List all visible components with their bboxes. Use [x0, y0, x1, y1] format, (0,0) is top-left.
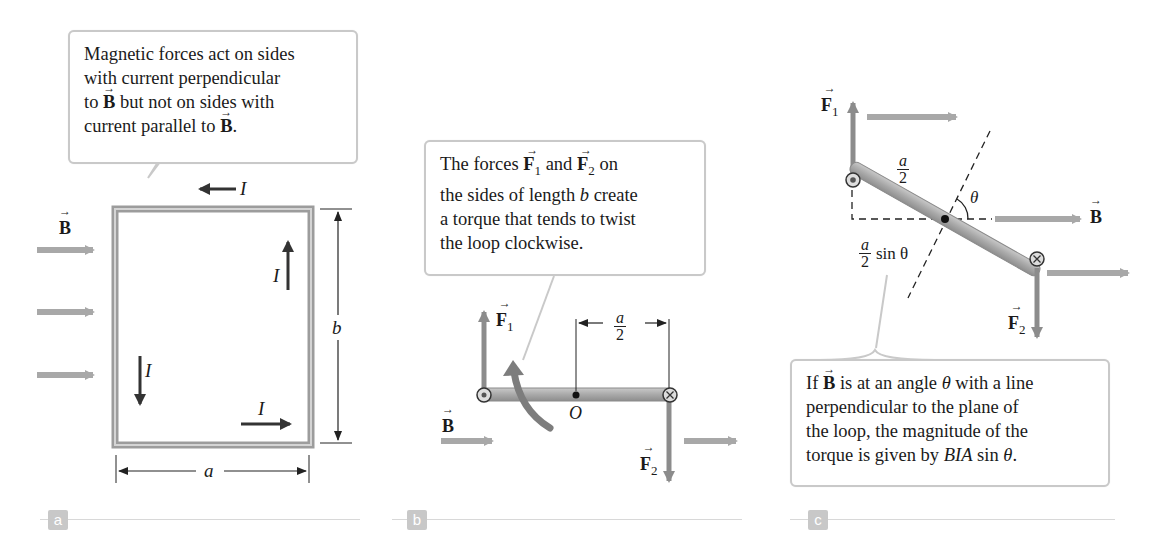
vector-f1: F1 — [523, 152, 541, 183]
label-force-f1: F1 — [496, 310, 514, 335]
label-current: I — [273, 265, 279, 287]
panel-tag-a: a — [48, 510, 68, 530]
callout-panel-b: The forces F1 and F2 on the sides of len… — [424, 140, 706, 276]
label-force-f2: F2 — [1008, 313, 1026, 338]
label-current: I — [258, 398, 264, 420]
label-current: I — [240, 178, 246, 200]
panel-tag-c: c — [808, 510, 828, 530]
current-loop — [115, 209, 311, 445]
label-origin: O — [569, 403, 582, 424]
label-dimension-a: a — [204, 460, 214, 482]
label-current: I — [145, 360, 151, 382]
divider — [40, 519, 360, 520]
label-field-b: B — [1090, 207, 1102, 228]
vector-b: B — [220, 114, 232, 138]
divider — [790, 519, 1115, 520]
callout-panel-c: If B is at an angle θ with a line perpen… — [790, 359, 1110, 487]
pivot-point — [941, 215, 949, 223]
label-half-a: a 2 — [614, 310, 626, 343]
divider — [392, 519, 742, 520]
label-half-a: a 2 — [897, 153, 909, 186]
callout-pointer — [148, 162, 160, 178]
angle-arc — [957, 199, 968, 219]
vector-b: B — [103, 90, 115, 114]
vector-f2: F2 — [577, 152, 595, 183]
vector-b: B — [823, 371, 835, 395]
label-force-f2: F2 — [640, 454, 658, 479]
pivot-point — [573, 392, 580, 399]
panel-c-diagram — [820, 103, 1128, 360]
panel-b-diagram — [441, 276, 736, 481]
callout-panel-a: Magnetic forces act on sides with curren… — [68, 30, 358, 164]
panel-a-diagram — [37, 162, 352, 483]
label-field-b: B — [442, 416, 454, 437]
label-field-b: B — [59, 218, 71, 239]
label-angle-theta: θ — [970, 188, 978, 208]
panel-tag-b: b — [407, 510, 427, 530]
label-moment-arm: a 2 sin θ — [859, 237, 908, 270]
label-force-f1: F1 — [821, 95, 839, 120]
label-dimension-b: b — [332, 317, 342, 339]
